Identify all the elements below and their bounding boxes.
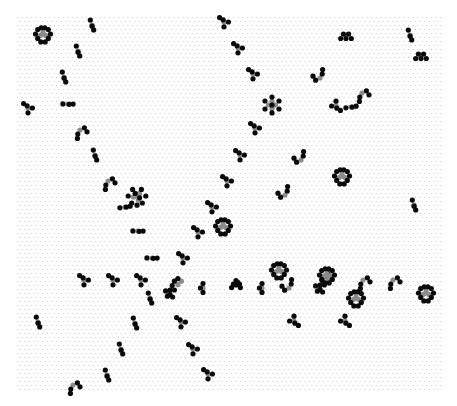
live-cell	[226, 219, 231, 224]
pattern-pair	[60, 101, 75, 107]
pattern-ring	[416, 284, 436, 303]
live-cell	[77, 384, 82, 389]
pattern-cap	[338, 31, 354, 41]
live-cell	[139, 187, 144, 192]
live-cell	[320, 67, 325, 72]
pattern-pair	[117, 204, 132, 211]
hex-automaton-board[interactable]	[0, 0, 457, 406]
live-cell	[175, 276, 180, 281]
live-cell	[170, 294, 175, 299]
live-cell	[332, 173, 337, 178]
dot-grid	[17, 17, 441, 390]
live-cell	[151, 256, 156, 261]
live-cell	[237, 157, 242, 162]
live-cell	[269, 102, 274, 107]
live-cell	[103, 187, 108, 192]
live-cell	[310, 74, 315, 79]
live-cell	[190, 351, 195, 356]
pattern-bar	[257, 281, 265, 295]
live-cell	[250, 76, 255, 81]
live-cell	[413, 56, 418, 61]
live-cell	[237, 150, 242, 155]
live-cell	[60, 70, 65, 75]
live-cell	[350, 105, 355, 110]
pattern-flower6	[262, 95, 281, 116]
pattern-tri	[106, 273, 120, 287]
live-cell	[205, 369, 210, 374]
live-cell	[329, 103, 334, 108]
live-cell	[346, 31, 351, 36]
live-cell	[137, 229, 142, 234]
pattern-pair	[144, 255, 159, 261]
live-cell	[262, 106, 267, 111]
live-cell	[259, 290, 264, 295]
live-cell	[209, 209, 214, 214]
live-cell	[285, 188, 290, 193]
live-cell	[342, 314, 347, 319]
pattern-tri	[191, 225, 205, 239]
live-cell	[315, 289, 320, 294]
pattern-tri	[21, 101, 35, 115]
live-cell	[406, 28, 411, 33]
live-cell	[235, 50, 240, 55]
live-cell	[30, 105, 35, 110]
live-cell	[146, 291, 151, 296]
dying-cell	[423, 289, 428, 294]
pattern-ring	[269, 261, 289, 280]
live-cell	[231, 282, 236, 287]
live-cell	[119, 348, 124, 353]
live-cell	[279, 284, 284, 289]
pattern-pair	[103, 368, 112, 383]
live-cell	[252, 130, 257, 135]
live-cell	[429, 286, 434, 291]
live-cell	[81, 275, 86, 280]
dying-cell	[339, 172, 344, 177]
pattern-cap	[413, 52, 429, 62]
live-cell	[48, 31, 53, 36]
live-cell	[215, 228, 220, 233]
pattern-clump	[163, 276, 184, 300]
live-cell	[346, 295, 351, 300]
live-cell	[418, 56, 423, 61]
live-cell	[224, 183, 229, 188]
live-cell	[221, 24, 226, 29]
live-cell	[117, 205, 122, 210]
dying-cell	[276, 266, 281, 271]
dying-cell	[40, 30, 45, 35]
live-cell	[366, 92, 371, 97]
pattern-clump2	[229, 278, 243, 290]
live-cell	[200, 229, 205, 234]
live-cell	[103, 182, 108, 187]
live-cell	[93, 154, 98, 159]
live-cell	[185, 255, 190, 260]
live-cell	[255, 71, 260, 76]
live-cell	[36, 321, 41, 326]
pattern-bar	[198, 281, 206, 295]
live-cell	[110, 275, 115, 280]
dying-cell	[324, 271, 329, 276]
live-cell	[320, 289, 325, 294]
live-cell	[275, 191, 280, 196]
live-cell	[86, 277, 91, 282]
live-cell	[291, 314, 296, 319]
live-cell	[46, 27, 51, 32]
live-cell	[91, 148, 96, 153]
live-cell	[358, 281, 363, 286]
live-cell	[163, 288, 168, 293]
live-cell	[68, 386, 73, 391]
live-cell	[334, 106, 339, 111]
live-cell	[341, 31, 346, 36]
pattern-hook	[75, 125, 90, 141]
live-cell	[137, 195, 142, 200]
live-cell	[334, 178, 339, 183]
live-cell	[257, 125, 262, 130]
pattern-tri	[287, 314, 301, 328]
live-cell	[431, 290, 436, 295]
pattern-tri	[205, 200, 219, 214]
live-cell	[397, 279, 402, 284]
live-cell	[282, 263, 287, 268]
live-cell	[214, 204, 219, 209]
pattern-tri	[176, 251, 190, 265]
live-cell	[138, 282, 143, 287]
live-cell	[343, 36, 348, 41]
